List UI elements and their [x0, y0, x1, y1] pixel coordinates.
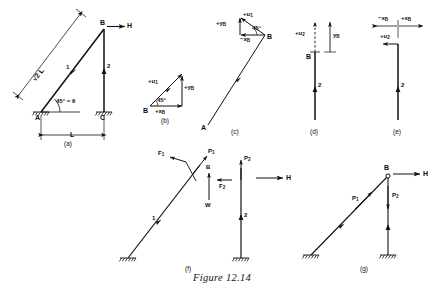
- panel-f-force-f2-label: F2: [219, 183, 225, 190]
- panel-a-caption: (a): [64, 140, 72, 147]
- panel-b-y-b-label: +yB: [184, 84, 194, 91]
- panel-e-member-2-label: 2: [401, 82, 404, 88]
- panel-c-y-b-label: +yB: [216, 20, 226, 27]
- panel-c-member-1-displacement: [208, 18, 265, 125]
- panel-a-node-b-label: B: [100, 19, 105, 26]
- figure-12-14-drawing: [0, 0, 444, 298]
- panel-g-force-h-label: H: [423, 170, 428, 177]
- panel-g-force-p2-label: P2: [392, 192, 399, 199]
- panel-b-u1-label: +u1: [148, 78, 158, 85]
- panel-a-node-a-label: A: [35, 114, 40, 121]
- panel-c-angle-label: 45°: [252, 25, 261, 31]
- panel-f-force-f1-label: F1: [158, 150, 164, 157]
- panel-f-force-p1-label: P1: [208, 148, 215, 155]
- panel-g-caption: (g): [360, 265, 368, 272]
- panel-a-member-2-label: 2: [107, 63, 110, 69]
- panel-a-member-1-label: 1: [66, 64, 69, 70]
- panel-f-member-1-label: 1: [152, 215, 155, 221]
- panel-f-force-h-label: H: [286, 174, 291, 181]
- panel-e-caption: (e): [393, 128, 401, 135]
- panel-d-y-b-label: yB: [333, 32, 340, 39]
- panel-f-member-2-label: 2: [244, 212, 247, 218]
- panel-g-force-p1-label: P1: [352, 195, 359, 202]
- panel-d-member-2-label: 2: [318, 82, 321, 88]
- panel-f-force-p2-label: P2: [244, 155, 251, 162]
- panel-g-node-b-label: B: [384, 164, 389, 171]
- panel-b-x-b-label: +xB: [155, 108, 165, 115]
- panel-f-force-w-label: W: [205, 202, 211, 208]
- panel-a-span-label: L: [70, 131, 74, 138]
- panel-f-caption: (f): [185, 265, 191, 272]
- panel-d-u2-label: +u2: [295, 30, 305, 37]
- panel-b-node-b-label: B: [143, 107, 148, 114]
- panel-c-caption: (c): [231, 128, 239, 135]
- panel-a-node-c-label: C: [100, 114, 105, 121]
- panel-g-free-body: [302, 174, 420, 259]
- figure-caption: Figure 12.14: [0, 272, 444, 283]
- panel-b-angle-label: 45°: [157, 97, 166, 103]
- panel-e-u2-label: +u2: [380, 33, 390, 40]
- panel-f-node-b-label: B: [206, 164, 210, 170]
- panel-a-angle-label: 45° = θ: [56, 98, 75, 104]
- panel-a-force-h-label: H: [127, 22, 132, 29]
- panel-d-node-b-label: B: [306, 53, 311, 60]
- panel-c-x-b-label: −xB: [240, 36, 250, 43]
- panel-f-free-body: [119, 156, 283, 261]
- panel-e-x-b-neg-label: −xB: [378, 15, 388, 22]
- panel-b-caption: (b): [161, 117, 169, 124]
- panel-a-frame: [13, 9, 125, 140]
- panel-c-node-b-label: B: [267, 33, 272, 40]
- panel-d-caption: (d): [310, 128, 318, 135]
- panel-c-u1-label: +u1: [243, 11, 253, 18]
- panel-c-node-a-label: A: [201, 124, 206, 131]
- panel-e-x-b-pos-label: +xB: [401, 15, 411, 22]
